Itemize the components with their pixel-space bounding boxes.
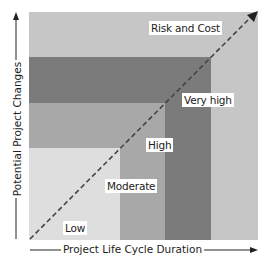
label-very-high: Very high [182,93,234,107]
label-risk-and-cost: Risk and Cost [149,21,222,35]
label-moderate: Moderate [105,179,157,193]
y-axis-label: Potential Project Changes [11,4,23,254]
label-high: High [146,138,173,152]
label-low: Low [63,221,87,235]
x-axis-label: Project Life Cycle Duration [0,243,265,255]
diagram-plot-area: Risk and Cost Very high High Moderate Lo… [29,12,258,240]
